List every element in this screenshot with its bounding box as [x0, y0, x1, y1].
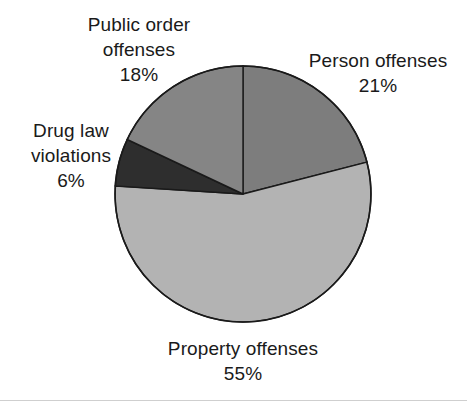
- pie-chart-figure: Public order offenses 18% Person offense…: [0, 0, 467, 408]
- pie-label-property-offenses: Property offenses 55%: [148, 336, 338, 386]
- pie-label-property-value: 55%: [148, 361, 338, 386]
- pie-label-drug-law-value: 6%: [10, 168, 132, 193]
- pie-label-property-name: Property offenses: [148, 336, 338, 361]
- pie-label-drug-law-name-line2: violations: [10, 143, 132, 168]
- pie-label-drug-law-violations: Drug law violations 6%: [10, 118, 132, 193]
- pie-label-public-order-value: 18%: [54, 62, 224, 87]
- pie-label-public-order-offenses: Public order offenses 18%: [54, 12, 224, 87]
- pie-slice-group: [115, 66, 371, 322]
- pie-label-person-value: 21%: [294, 73, 462, 98]
- bottom-divider-rule: [0, 400, 467, 401]
- pie-label-person-name: Person offenses: [294, 48, 462, 73]
- pie-label-public-order-name-line2: offenses: [54, 37, 224, 62]
- pie-label-drug-law-name-line1: Drug law: [10, 118, 132, 143]
- pie-label-person-offenses: Person offenses 21%: [294, 48, 462, 98]
- pie-label-public-order-name-line1: Public order: [54, 12, 224, 37]
